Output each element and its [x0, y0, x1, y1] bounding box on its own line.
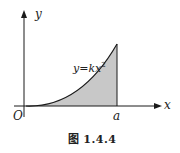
figure-diagram: y x O a y=kx2 图 1.4.4 — [0, 0, 180, 153]
figure-caption: 图 1.4.4 — [0, 130, 180, 146]
x-axis-label: x — [164, 99, 171, 111]
shaded-area — [26, 44, 117, 106]
a-label: a — [113, 110, 120, 122]
curve-equation-text: y=kx — [73, 62, 101, 75]
y-axis-label: y — [35, 8, 42, 20]
curve-equation-exponent: 2 — [101, 61, 105, 69]
curve-equation-label: y=kx2 — [73, 62, 106, 74]
y-axis-arrow-icon — [21, 10, 27, 18]
origin-label: O — [13, 110, 23, 122]
x-axis-arrow-icon — [154, 103, 162, 109]
